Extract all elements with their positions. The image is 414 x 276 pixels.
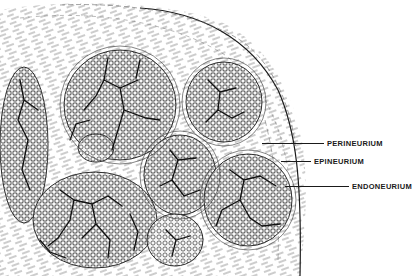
- endoneurium-leader-line: [285, 186, 349, 187]
- perineurium-leader-line-visible: [262, 143, 324, 144]
- nerve-cross-section-illustration: [0, 0, 414, 276]
- label-epineurium: EPINEURIUM: [314, 157, 364, 166]
- label-perineurium: PERINEURIUM: [327, 139, 383, 148]
- epineurium-leader-line: [281, 161, 311, 162]
- label-endoneurium: ENDONEURIUM: [352, 182, 412, 191]
